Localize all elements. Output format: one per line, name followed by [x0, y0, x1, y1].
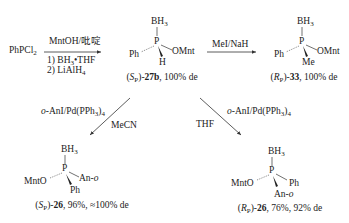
26r-left: MntO [231, 179, 254, 189]
27b-right: OMnt [172, 47, 195, 57]
26r-top-sub: 3 [281, 150, 285, 158]
27b-bottom: H [159, 58, 166, 68]
27b-label: (SP)-27b, 100% de [126, 73, 197, 84]
27b-number: 27b [145, 72, 160, 82]
26r-bottom-italic: o [289, 189, 294, 199]
r2-sub: 4 [82, 69, 86, 77]
27b-left: Ph [129, 50, 139, 60]
26r-top-text: BH [268, 146, 281, 156]
26r-bottom-text: An- [274, 189, 289, 199]
26r-rest: , 76%, 92% de [267, 203, 323, 213]
right-reagent-sub2: 4 [288, 110, 292, 118]
27b-top: BH3 [151, 17, 168, 28]
r2-prefix: 2) LiAlH [47, 65, 82, 75]
27b-rest: , 100% de [159, 72, 197, 82]
33-top: BH3 [297, 17, 314, 28]
33-right: OMnt [317, 47, 340, 57]
26r-number: 26 [257, 203, 267, 213]
26r-config-sub: P [247, 207, 251, 215]
27b-top-text: BH [151, 16, 164, 26]
27b-config-sub: P [134, 76, 138, 84]
33-top-text: BH [297, 16, 310, 26]
step3-right-solvent: THF [196, 120, 214, 130]
26r-bottom: An-o [274, 190, 294, 200]
step3-right-reagent: o-AnI/Pd(PPh3)4 [227, 107, 291, 118]
26s-rest: , 96%, ≈100% de [63, 200, 129, 210]
26s-top-sub: 3 [74, 148, 78, 156]
27b-center: P [154, 37, 159, 47]
starting-material-sub: 2 [33, 49, 37, 57]
26s-center: P [62, 164, 67, 174]
26s-left: MntO [24, 177, 47, 187]
26s-right: An-o [79, 174, 99, 184]
33-center: P [299, 37, 304, 47]
step2-reagent-above: MeI/NaH [212, 40, 248, 50]
26s-bottom: Ph [70, 186, 80, 196]
33-top-sub: 3 [310, 20, 314, 28]
r1-prefix: 1) BH [47, 55, 71, 65]
26s-top-text: BH [61, 144, 74, 154]
26s-right-italic: o [94, 173, 99, 183]
26s-label: (SP)-26, 96%, ≈100% de [35, 201, 128, 212]
33-rest: , 100% de [299, 72, 337, 82]
33-left: Ph [274, 50, 284, 60]
33-config-sub: P [279, 76, 283, 84]
26s-number: 26 [54, 200, 64, 210]
26r-label: (RP)-26, 76%, 92% de [238, 204, 322, 215]
33-number: 33 [290, 72, 300, 82]
left-reagent-mid: -AnI/Pd(PPh [46, 106, 95, 116]
33-label: (RP)-33, 100% de [271, 73, 338, 84]
right-reagent-mid: -AnI/Pd(PPh [232, 106, 281, 116]
r1-suffix: •THF [74, 55, 95, 65]
26r-right: Ph [289, 179, 299, 189]
step3-left-reagent: o-AnI/Pd(PPh3)4 [41, 107, 105, 118]
33-bottom: Me [302, 58, 315, 68]
26r-center: P [269, 166, 274, 176]
26s-top: BH3 [61, 145, 78, 156]
step1-reagent-above: MntOH/吡啶 [49, 37, 101, 47]
26r-top: BH3 [268, 147, 285, 158]
26s-right-text: An- [79, 173, 94, 183]
27b-top-sub: 3 [164, 20, 168, 28]
left-reagent-sub2: 4 [102, 110, 106, 118]
starting-material-text: PhPCl [9, 45, 33, 55]
step3-left-solvent: MeCN [111, 121, 137, 131]
step1-reagent-below-2: 2) LiAlH4 [47, 66, 86, 77]
26s-config-sub: P [43, 204, 47, 212]
starting-material: PhPCl2 [9, 46, 37, 57]
